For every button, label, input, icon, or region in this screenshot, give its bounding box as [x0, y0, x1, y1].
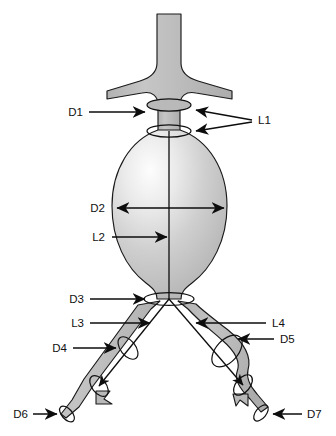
- aaa-measurement-diagram: D1 L1 D2 L2 D3 L3 L: [0, 0, 336, 436]
- annotation-d7: D7: [273, 408, 322, 420]
- label-l3: L3: [71, 317, 84, 329]
- leader-l1-upper: [196, 110, 252, 120]
- annotation-d3: D3: [69, 293, 145, 305]
- annotation-d5: D5: [238, 333, 295, 345]
- label-l1: L1: [258, 114, 271, 126]
- annotation-l1: L1: [196, 110, 271, 131]
- suprarenal-aorta-with-renal-branches: [107, 14, 232, 105]
- label-d1: D1: [68, 106, 83, 118]
- label-d2: D2: [90, 202, 105, 214]
- label-l2: L2: [92, 231, 105, 243]
- label-d5: D5: [280, 333, 295, 345]
- annotation-d1: D1: [68, 106, 145, 118]
- ring-d7-right-landing-zone: [251, 402, 271, 423]
- label-l4: L4: [272, 317, 285, 329]
- label-d3: D3: [69, 293, 84, 305]
- leader-l1-lower: [196, 122, 252, 131]
- label-d6: D6: [13, 408, 28, 420]
- ring-d1-proximal-neck: [147, 99, 191, 111]
- annotation-d6: D6: [13, 408, 57, 420]
- label-d4: D4: [52, 342, 67, 354]
- left-iliac-branch-spur: [96, 391, 112, 404]
- label-d7: D7: [307, 408, 322, 420]
- aorta-vessel-body: [61, 14, 268, 418]
- right-iliac-branch-spur: [233, 394, 248, 406]
- right-iliac-limb: [178, 301, 268, 412]
